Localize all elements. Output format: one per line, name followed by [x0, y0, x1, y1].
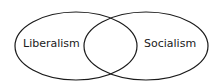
venn-diagram: Liberalism Socialism: [0, 0, 220, 83]
socialism-label: Socialism: [144, 37, 196, 50]
liberalism-label: Liberalism: [23, 37, 80, 50]
